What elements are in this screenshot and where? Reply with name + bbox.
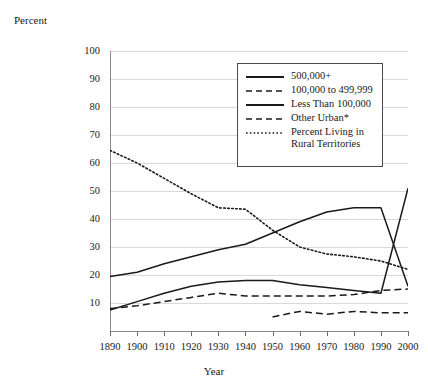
x-tick-mark: [408, 331, 409, 336]
y-tick-label: 80: [66, 102, 100, 112]
legend-swatch-dashed-icon: [245, 84, 287, 93]
line-chart: Percent 100908070605040302010 1890190019…: [0, 0, 428, 391]
legend-label: 500,000+: [287, 70, 331, 82]
legend-swatch-dashed-icon: [245, 112, 287, 121]
y-tick-label: 90: [66, 74, 100, 84]
y-axis-title: Percent: [14, 14, 47, 26]
series-line: [273, 311, 408, 317]
series-line: [110, 208, 408, 286]
x-axis-title: Year: [0, 365, 428, 377]
y-tick-label: 30: [66, 242, 100, 252]
legend-label-line2: Rural Territories: [291, 138, 364, 150]
y-tick-label: 100: [66, 46, 100, 56]
legend-label: 100,000 to 499,999: [287, 84, 373, 96]
legend-item[interactable]: Percent Living inRural Territories: [245, 126, 375, 150]
legend: 500,000+100,000 to 499,999Less Than 100,…: [237, 63, 383, 167]
legend-label: Other Urban*: [287, 112, 349, 124]
legend-item[interactable]: Less Than 100,000: [245, 98, 375, 110]
y-tick-label: 40: [66, 214, 100, 224]
legend-label: Percent Living inRural Territories: [287, 126, 364, 150]
legend-swatch-solid-icon: [245, 70, 287, 79]
y-tick-label: 60: [66, 158, 100, 168]
y-tick-label: 20: [66, 270, 100, 280]
y-tick-label: 50: [66, 186, 100, 196]
series-line: [110, 150, 408, 269]
legend-swatch-dotted-icon: [245, 126, 287, 135]
legend-item[interactable]: 500,000+: [245, 70, 375, 82]
legend-label: Less Than 100,000: [287, 98, 371, 110]
y-tick-label: 10: [66, 298, 100, 308]
legend-item[interactable]: 100,000 to 499,999: [245, 84, 375, 96]
series-line: [110, 188, 408, 310]
legend-swatch-solid-icon: [245, 98, 287, 107]
x-tick-label: 2000: [388, 341, 428, 352]
y-tick-label: 70: [66, 130, 100, 140]
legend-item[interactable]: Other Urban*: [245, 112, 375, 124]
